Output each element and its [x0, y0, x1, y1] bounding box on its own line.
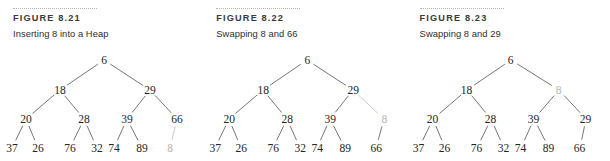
tree-node: 28	[485, 114, 497, 125]
tree-node: 76	[64, 143, 76, 154]
tree-node: 37	[413, 143, 425, 154]
figure-caption: Swapping 8 and 29	[420, 27, 570, 40]
tree-node: 66	[574, 143, 586, 154]
tree-node: 20	[20, 114, 32, 125]
tree-node: 8	[556, 85, 562, 96]
tree-node: 37	[210, 143, 222, 154]
tree-node: 18	[258, 85, 270, 96]
tree-nodes: 61829202839663726763274898	[0, 52, 203, 161]
tree-node: 29	[144, 85, 156, 96]
tree-node: 76	[471, 143, 483, 154]
tree-node: 39	[121, 114, 133, 125]
tree-node: 74	[108, 143, 120, 154]
tree-node: 89	[136, 143, 148, 154]
figure-caption: Swapping 8 and 66	[216, 27, 366, 40]
figure-label: FIGURE 8.23	[420, 13, 570, 24]
tree-node: 18	[461, 85, 473, 96]
figure-header: FIGURE 8.22Swapping 8 and 66	[216, 8, 366, 40]
tree-node: 26	[439, 143, 451, 154]
figure-header: FIGURE 8.23Swapping 8 and 29	[420, 8, 570, 40]
tree-node: 74	[312, 143, 324, 154]
figure-divider-rule	[216, 8, 300, 9]
figure-caption: Inserting 8 into a Heap	[13, 27, 163, 40]
tree-node: 32	[295, 143, 307, 154]
figure-header: FIGURE 8.21Inserting 8 into a Heap	[13, 8, 163, 40]
tree-node: 6	[304, 55, 310, 66]
figure-label: FIGURE 8.22	[216, 13, 366, 24]
tree-node: 28	[78, 114, 90, 125]
tree-node: 89	[340, 143, 352, 154]
figure-row: FIGURE 8.21Inserting 8 into a Heap618292…	[0, 0, 610, 161]
tree-node: 39	[528, 114, 540, 125]
tree-node: 26	[236, 143, 248, 154]
tree-node: 74	[515, 143, 527, 154]
tree-node: 18	[54, 85, 66, 96]
figure-divider-rule	[420, 8, 504, 9]
tree-node: 37	[6, 143, 18, 154]
tree-node: 39	[325, 114, 337, 125]
tree-node: 28	[282, 114, 294, 125]
tree-node: 20	[224, 114, 236, 125]
tree-node: 66	[171, 114, 183, 125]
tree-node: 66	[371, 143, 383, 154]
heap-tree-diagram: 61829202839663726763274898	[0, 52, 203, 161]
tree-node: 6	[508, 55, 514, 66]
figure-divider-rule	[13, 8, 97, 9]
heap-tree-diagram: 61829202839837267632748966	[203, 52, 406, 161]
tree-node: 20	[427, 114, 439, 125]
tree-node: 26	[32, 143, 44, 154]
heap-tree-diagram: 61882028392937267632748966	[407, 52, 610, 161]
figure-panel: FIGURE 8.22Swapping 8 and 66618292028398…	[203, 0, 406, 161]
tree-node: 6	[101, 55, 107, 66]
tree-nodes: 61882028392937267632748966	[407, 52, 610, 161]
tree-node: 76	[268, 143, 280, 154]
tree-nodes: 61829202839837267632748966	[203, 52, 406, 161]
tree-node: 32	[498, 143, 510, 154]
figure-panel: FIGURE 8.21Inserting 8 into a Heap618292…	[0, 0, 203, 161]
tree-node: 8	[381, 114, 387, 125]
tree-node: 32	[91, 143, 103, 154]
tree-node: 29	[580, 114, 592, 125]
tree-node: 8	[167, 143, 173, 154]
figure-label: FIGURE 8.21	[13, 13, 163, 24]
tree-node: 89	[543, 143, 555, 154]
tree-node: 29	[348, 85, 360, 96]
figure-panel: FIGURE 8.23Swapping 8 and 29618820283929…	[407, 0, 610, 161]
